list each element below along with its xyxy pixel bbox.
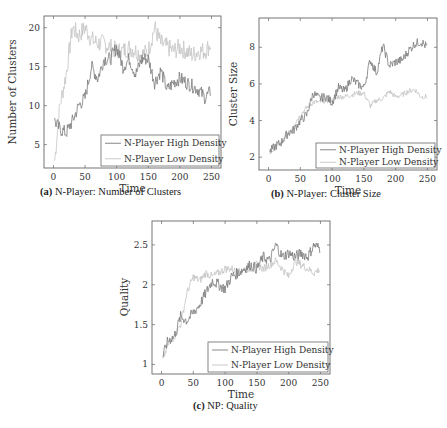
y-tick-label: 1.5 [134, 320, 149, 330]
x-tick-label: 150 [248, 378, 265, 388]
y-tick-label: 2.5 [134, 240, 149, 250]
x-tick-label: 250 [419, 174, 436, 184]
x-tick-label: 50 [188, 378, 200, 388]
caption-b: (b) N-Player: Cluster Size [271, 188, 381, 199]
legend-label-high: N-Player High Density [124, 138, 227, 148]
y-tick-label: 10 [29, 101, 41, 111]
y-axis-label: Cluster Size [227, 62, 239, 127]
legend-label-low: N-Player Low Density [124, 154, 224, 164]
y-tick-label: 15 [29, 62, 41, 72]
caption-c-label: (c) [193, 400, 205, 411]
x-tick-label: 0 [159, 378, 165, 388]
x-axis-label: Time [228, 388, 255, 400]
x-tick-label: 200 [387, 174, 404, 184]
caption-a-text: N-Player: Number of Clusters [55, 186, 181, 197]
caption-a: (a) N-Player: Number of Clusters [40, 186, 181, 197]
y-tick-label: 4 [249, 116, 255, 126]
caption-c-text: NP: Quality [207, 400, 257, 411]
x-tick-label: 100 [108, 172, 125, 182]
y-tick-label: 2 [249, 152, 255, 162]
legend: N-Player High DensityN-Player Low Densit… [316, 143, 442, 168]
x-tick-label: 150 [355, 174, 372, 184]
x-tick-label: 250 [203, 172, 220, 182]
x-tick-label: 50 [79, 172, 91, 182]
legend-label-low: N-Player Low Density [231, 360, 331, 370]
x-tick-label: 150 [140, 172, 157, 182]
caption-b-label: (b) [271, 188, 284, 199]
legend-label-low: N-Player Low Density [339, 157, 439, 167]
x-tick-label: 100 [324, 174, 341, 184]
x-tick-label: 0 [266, 174, 272, 184]
caption-b-text: N-Player: Cluster Size [286, 188, 380, 199]
figure-canvas: 0501001502002505101520TimeNumber of Clus… [0, 0, 447, 428]
caption-a-label: (a) [40, 186, 52, 197]
x-tick-label: 250 [312, 378, 329, 388]
series-high-density-line [55, 45, 211, 137]
chart-a: 0501001502002505101520TimeNumber of Clus… [6, 16, 227, 194]
y-tick-label: 1 [142, 359, 148, 369]
y-tick-label: 2 [142, 280, 148, 290]
legend: N-Player High DensityN-Player Low Densit… [101, 135, 227, 166]
x-tick-label: 200 [171, 172, 188, 182]
chart-c: 05010015020025011.522.5TimeQualityN-Play… [118, 221, 334, 400]
y-tick-label: 20 [29, 23, 41, 33]
series-high-density-line [163, 243, 320, 357]
legend-label-high: N-Player High Density [339, 145, 442, 155]
y-axis-label: Number of Clusters [6, 39, 18, 144]
y-axis-label: Quality [118, 278, 130, 317]
caption-c: (c) NP: Quality [193, 400, 258, 411]
y-tick-label: 5 [34, 140, 40, 150]
y-tick-label: 8 [249, 42, 255, 52]
x-tick-label: 100 [217, 378, 234, 388]
legend: N-Player High DensityN-Player Low Densit… [208, 342, 334, 372]
x-tick-label: 200 [280, 378, 297, 388]
x-tick-label: 50 [295, 174, 307, 184]
y-tick-label: 6 [249, 79, 255, 89]
chart-b: 0501001502002502468TimeCluster SizeN-Pla… [227, 18, 442, 196]
legend-label-high: N-Player High Density [231, 345, 334, 355]
x-tick-label: 0 [51, 172, 57, 182]
